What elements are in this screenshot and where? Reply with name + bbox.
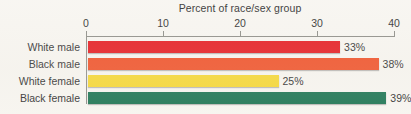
bar-row-white-male: White male 33% <box>0 39 411 56</box>
category-label-black-male: Black male <box>29 58 80 70</box>
bar-value-black-male: 38% <box>383 58 404 70</box>
bar-white-female <box>88 75 279 87</box>
category-label-white-male: White male <box>27 41 80 53</box>
chart-title: Percent of race/sex group <box>86 2 394 14</box>
bar-value-white-male: 33% <box>344 41 365 53</box>
bar-row-black-female: Black female 39% <box>0 90 411 107</box>
bar-chart: Percent of race/sex group 0 10 20 30 40 … <box>0 0 411 114</box>
bar-row-black-male: Black male 38% <box>0 56 411 73</box>
bar-value-black-female: 39% <box>390 92 411 104</box>
category-label-black-female: Black female <box>20 92 80 104</box>
x-axis-line <box>86 36 395 37</box>
bar-value-white-female: 25% <box>283 75 304 87</box>
bar-white-male <box>88 41 340 53</box>
x-tick-label-10: 10 <box>157 17 169 29</box>
x-tick-label-30: 30 <box>311 17 323 29</box>
x-tick-label-20: 20 <box>234 17 246 29</box>
x-tick-label-40: 40 <box>388 17 400 29</box>
bar-row-white-female: White female 25% <box>0 73 411 90</box>
x-tick-label-0: 0 <box>83 17 89 29</box>
category-label-white-female: White female <box>19 75 80 87</box>
bar-black-female <box>88 92 386 104</box>
bar-black-male <box>88 58 379 70</box>
